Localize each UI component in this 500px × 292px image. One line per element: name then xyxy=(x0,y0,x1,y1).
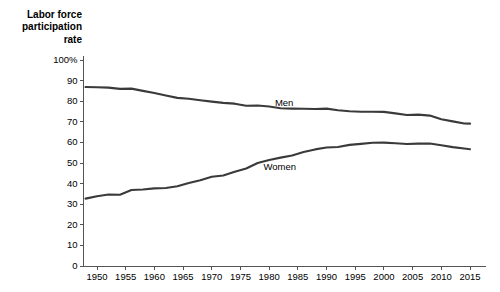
y-tick-label: 70 xyxy=(34,117,78,127)
labor-force-participation-chart: Labor force participation rate 010203040… xyxy=(0,0,500,292)
y-tick-label: 80 xyxy=(34,96,78,106)
y-tick-label: 30 xyxy=(34,199,78,209)
x-tick-label: 2015 xyxy=(450,272,490,282)
series-label-men: Men xyxy=(275,98,293,108)
y-tick-label: 40 xyxy=(34,179,78,189)
series-label-women: Women xyxy=(263,162,296,172)
y-tick-label: 0 xyxy=(34,261,78,271)
y-tick-label: 100% xyxy=(34,55,78,65)
y-tick-label: 50 xyxy=(34,158,78,168)
y-tick-label: 10 xyxy=(34,240,78,250)
y-tick-label: 60 xyxy=(34,137,78,147)
y-tick-label: 20 xyxy=(34,220,78,230)
y-tick-label: 90 xyxy=(34,76,78,86)
